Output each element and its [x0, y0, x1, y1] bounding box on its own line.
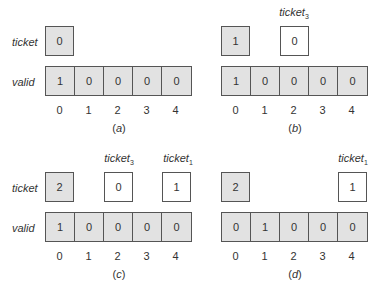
panel-b: 1 ticket3 0 1 0 0 0 0 0 1 2 3 4 (b)	[191, 0, 382, 146]
panel-caption: (a)	[99, 122, 139, 134]
panel-caption: (c)	[99, 268, 139, 280]
index-labels: 0 1 2 3 4	[221, 104, 366, 116]
valid-cell-0: 1	[46, 67, 75, 95]
index-2: 2	[103, 104, 132, 116]
valid-cell-0: 1	[46, 213, 75, 241]
index-1: 1	[74, 250, 103, 262]
index-0: 0	[221, 250, 250, 262]
valid-cell-3: 0	[309, 213, 338, 241]
index-2: 2	[279, 104, 308, 116]
index-4: 4	[337, 104, 366, 116]
valid-cell-3: 0	[133, 67, 162, 95]
index-0: 0	[45, 250, 74, 262]
index-0: 0	[221, 104, 250, 116]
valid-cell-2: 0	[280, 213, 309, 241]
panel-caption: (d)	[275, 268, 315, 280]
valid-cell-1: 1	[251, 213, 280, 241]
thread-ticket-label-1: ticket1	[328, 152, 378, 166]
valid-cell-4: 0	[162, 67, 191, 95]
panel-d: 2 ticket1 1 0 1 0 0 0 0 1 2 3 4 (d)	[191, 146, 382, 292]
thread-ticket-label-3: ticket3	[94, 152, 144, 166]
index-1: 1	[250, 250, 279, 262]
valid-cell-1: 0	[251, 67, 280, 95]
index-4: 4	[161, 104, 190, 116]
valid-array: 1 0 0 0 0	[221, 66, 368, 96]
panel-c: ticket valid 2 ticket3 0 ticket1 1 1 0 0…	[0, 146, 191, 292]
valid-cell-3: 0	[309, 67, 338, 95]
valid-cell-1: 0	[75, 213, 104, 241]
panel-caption: (b)	[275, 122, 315, 134]
thread-ticket-box-3: 0	[280, 26, 309, 56]
index-4: 4	[337, 250, 366, 262]
thread-ticket-box-1: 1	[162, 172, 191, 202]
ticket-row-label: ticket	[12, 182, 38, 194]
index-3: 3	[132, 250, 161, 262]
valid-cell-4: 0	[338, 67, 367, 95]
index-labels: 0 1 2 3 4	[221, 250, 366, 262]
thread-ticket-box-3: 0	[104, 172, 133, 202]
index-2: 2	[103, 250, 132, 262]
index-3: 3	[308, 104, 337, 116]
index-0: 0	[45, 104, 74, 116]
ticket-counter-box: 1	[221, 26, 250, 56]
index-3: 3	[308, 250, 337, 262]
ticket-row-label: ticket	[12, 36, 38, 48]
valid-cell-1: 0	[75, 67, 104, 95]
index-labels: 0 1 2 3 4	[45, 250, 190, 262]
ticket-counter-box: 2	[221, 172, 250, 202]
ticket-counter-box: 2	[45, 172, 74, 202]
valid-cell-2: 0	[104, 213, 133, 241]
valid-array: 1 0 0 0 0	[45, 212, 192, 242]
index-1: 1	[250, 104, 279, 116]
thread-ticket-label-3: ticket3	[269, 6, 319, 20]
index-labels: 0 1 2 3 4	[45, 104, 190, 116]
index-1: 1	[74, 104, 103, 116]
index-3: 3	[132, 104, 161, 116]
valid-cell-0: 0	[222, 213, 251, 241]
valid-array: 0 1 0 0 0	[221, 212, 368, 242]
index-2: 2	[279, 250, 308, 262]
index-4: 4	[161, 250, 190, 262]
valid-cell-4: 0	[162, 213, 191, 241]
valid-cell-3: 0	[133, 213, 162, 241]
valid-cell-2: 0	[280, 67, 309, 95]
valid-cell-0: 1	[222, 67, 251, 95]
valid-row-label: valid	[12, 76, 35, 88]
valid-array: 1 0 0 0 0	[45, 66, 192, 96]
valid-row-label: valid	[12, 222, 35, 234]
panel-a: ticket valid 0 1 0 0 0 0 0 1 2 3 4 (a)	[0, 0, 191, 146]
ticket-counter-box: 0	[45, 26, 74, 56]
valid-cell-4: 0	[338, 213, 367, 241]
thread-ticket-box-1: 1	[338, 172, 367, 202]
valid-cell-2: 0	[104, 67, 133, 95]
